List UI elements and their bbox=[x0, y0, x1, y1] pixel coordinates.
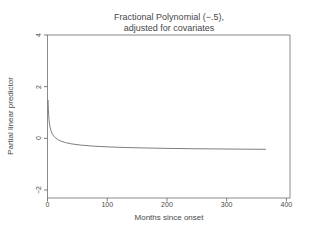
x-tick-label-100: 100 bbox=[101, 201, 113, 208]
y-tick-label-2: 2 bbox=[35, 85, 42, 89]
x-tick-label-200: 200 bbox=[161, 201, 173, 208]
x-axis-title: Months since onset bbox=[135, 213, 204, 222]
y-tick-label-4: 4 bbox=[35, 33, 42, 37]
plot-area bbox=[0, 0, 309, 235]
x-tick-label-300: 300 bbox=[221, 201, 233, 208]
plot-frame bbox=[48, 35, 291, 198]
chart-figure: Fractional Polynomial (−.5), adjusted fo… bbox=[0, 0, 309, 235]
y-tick-label-0: 0 bbox=[35, 136, 42, 140]
x-tick-label-400: 400 bbox=[281, 201, 293, 208]
y-tick-label-−2: −2 bbox=[35, 186, 42, 194]
x-tick-label-0: 0 bbox=[46, 201, 50, 208]
curve-line bbox=[48, 100, 265, 149]
